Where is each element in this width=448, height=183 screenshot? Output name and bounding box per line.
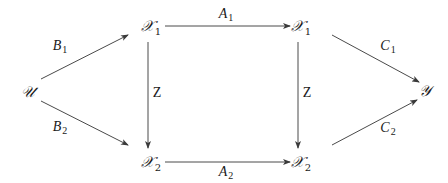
label-a2-text: A (219, 164, 228, 179)
label-b1-sub: 1 (62, 44, 67, 55)
label-z-right: Z (303, 86, 312, 100)
label-z-left-text: Z (153, 85, 162, 100)
label-b1-text: B (53, 38, 62, 53)
node-x2-left-symbol: 𝒳 (141, 153, 154, 171)
node-y: 𝒴 (419, 84, 431, 99)
label-c2: C2 (380, 121, 395, 135)
node-x2-right-sub: 2 (305, 162, 311, 173)
label-c1-text: C (380, 38, 389, 53)
label-z-right-text: Z (303, 85, 312, 100)
label-a2-sub: 2 (228, 170, 233, 181)
label-a2: A2 (219, 165, 234, 179)
label-b2: B2 (53, 120, 68, 134)
label-b2-text: B (53, 119, 62, 134)
node-x2-left-sub: 2 (155, 162, 161, 173)
node-x1-left-sub: 1 (155, 26, 161, 37)
label-a1-sub: 1 (228, 12, 233, 23)
label-a1: A1 (219, 7, 234, 21)
node-x1-right-sub: 1 (305, 26, 311, 37)
node-x1-right-symbol: 𝒳 (291, 17, 304, 35)
node-x2-left: 𝒳2 (141, 155, 161, 170)
arrow-c2 (332, 100, 417, 145)
node-x1-right: 𝒳1 (291, 19, 311, 34)
label-c2-text: C (380, 120, 389, 135)
arrow-c1 (332, 35, 419, 82)
node-x1-left-symbol: 𝒳 (141, 17, 154, 35)
node-x2-right-symbol: 𝒳 (291, 153, 304, 171)
node-y-symbol: 𝒴 (419, 82, 431, 100)
label-c2-sub: 2 (391, 126, 396, 137)
node-x2-right: 𝒳2 (291, 155, 311, 170)
label-a1-text: A (219, 6, 228, 21)
label-z-left: Z (153, 86, 162, 100)
node-u-symbol: 𝒰 (21, 83, 35, 101)
label-b2-sub: 2 (62, 125, 67, 136)
commutative-diagram: 𝒰 𝒳1 𝒳1 𝒳2 𝒳2 𝒴 B1 B2 A1 A2 Z Z C1 C2 (0, 0, 448, 183)
node-u: 𝒰 (21, 85, 35, 100)
label-c1-sub: 1 (391, 44, 396, 55)
label-c1: C1 (380, 39, 395, 53)
node-x1-left: 𝒳1 (141, 19, 161, 34)
label-b1: B1 (53, 39, 68, 53)
diagram-arrows (0, 0, 448, 183)
